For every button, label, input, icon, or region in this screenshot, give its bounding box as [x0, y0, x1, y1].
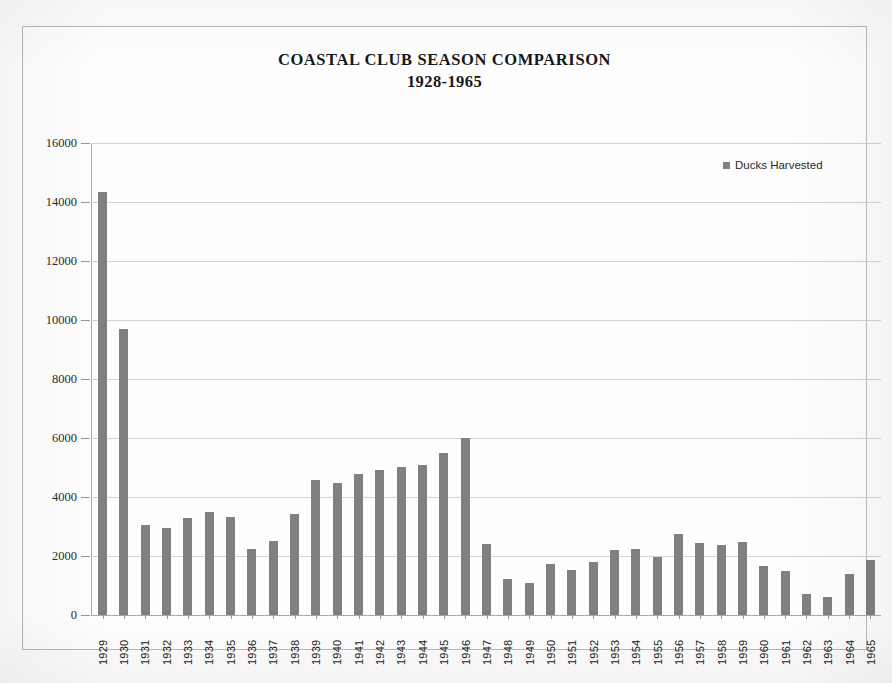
x-tick-1940	[337, 615, 338, 619]
y-tick-2000	[81, 556, 90, 557]
bar-slot	[796, 143, 817, 615]
y-axis-label: 0	[71, 608, 77, 623]
bar-1939[interactable]	[311, 480, 320, 615]
x-tick-1953	[615, 615, 616, 619]
x-axis-label-1950: 1950	[545, 621, 557, 665]
bar-1963[interactable]	[823, 597, 832, 615]
x-tick-slot	[647, 615, 668, 620]
x-tick-slot	[433, 615, 454, 620]
x-label-slot: 1950	[540, 621, 561, 665]
x-tick-1947	[487, 615, 488, 619]
bar-1957[interactable]	[695, 543, 704, 615]
bar-1935[interactable]	[226, 517, 235, 615]
bar-1929[interactable]	[98, 192, 107, 615]
bar-1960[interactable]	[759, 566, 768, 615]
bar-1940[interactable]	[333, 483, 342, 615]
bar-1936[interactable]	[247, 549, 256, 615]
x-label-slot: 1936	[241, 621, 262, 665]
x-axis-label-1947: 1947	[481, 621, 493, 665]
x-tick-1949	[529, 615, 530, 619]
x-tick-1956	[679, 615, 680, 619]
x-label-slot: 1934	[199, 621, 220, 665]
x-axis-label-1934: 1934	[203, 621, 215, 665]
x-label-slot: 1965	[860, 621, 881, 665]
bar-1950[interactable]	[546, 564, 555, 615]
x-tick-1933	[188, 615, 189, 619]
y-axis-label: 2000	[52, 549, 77, 564]
bar-1938[interactable]	[290, 514, 299, 615]
bar-slot	[604, 143, 625, 615]
x-tick-1939	[316, 615, 317, 619]
x-axis-label-1961: 1961	[780, 621, 792, 665]
bar-slot	[135, 143, 156, 615]
x-label-slot: 1930	[113, 621, 134, 665]
x-tick-slot	[156, 615, 177, 620]
bar-1962[interactable]	[802, 594, 811, 615]
bar-slot	[583, 143, 604, 615]
bar-1948[interactable]	[503, 579, 512, 615]
chart-title-text: COASTAL CLUB SEASON COMPARISON	[278, 50, 611, 69]
x-tick-1941	[359, 615, 360, 619]
bar-slot	[220, 143, 241, 615]
bar-1961[interactable]	[781, 571, 790, 615]
bar-1964[interactable]	[845, 574, 854, 615]
x-axis-label-1943: 1943	[395, 621, 407, 665]
bar-1933[interactable]	[183, 518, 192, 615]
x-tick-slot	[497, 615, 518, 620]
x-label-slot: 1961	[775, 621, 796, 665]
x-axis-label-1940: 1940	[331, 621, 343, 665]
x-tick-slot	[732, 615, 753, 620]
x-label-slot: 1938	[284, 621, 305, 665]
x-axis-label-1954: 1954	[630, 621, 642, 665]
bar-1959[interactable]	[738, 542, 747, 615]
x-tick-slot	[604, 615, 625, 620]
bar-1930[interactable]	[119, 329, 128, 615]
bar-1934[interactable]	[205, 512, 214, 615]
x-tick-slot	[476, 615, 497, 620]
bar-1965[interactable]	[866, 560, 875, 615]
x-axis-label-1942: 1942	[374, 621, 386, 665]
x-tick-1938	[295, 615, 296, 619]
x-tick-1957	[700, 615, 701, 619]
y-tick-8000	[81, 379, 90, 380]
x-label-slot: 1962	[796, 621, 817, 665]
bar-1958[interactable]	[717, 545, 726, 615]
x-axis-label-1965: 1965	[865, 621, 877, 665]
bar-1955[interactable]	[653, 557, 662, 615]
x-label-slot: 1959	[732, 621, 753, 665]
x-tick-slot	[796, 615, 817, 620]
bar-1953[interactable]	[610, 550, 619, 615]
bar-1937[interactable]	[269, 541, 278, 615]
bar-1949[interactable]	[525, 583, 534, 615]
x-label-slot: 1963	[818, 621, 839, 665]
bar-slot	[177, 143, 198, 615]
bar-1956[interactable]	[674, 534, 683, 615]
x-tick-1936	[252, 615, 253, 619]
y-axis-label: 8000	[52, 372, 77, 387]
bar-1951[interactable]	[567, 570, 576, 615]
bar-1945[interactable]	[439, 453, 448, 615]
x-axis-label-1948: 1948	[502, 621, 514, 665]
x-tick-1937	[273, 615, 274, 619]
bar-1932[interactable]	[162, 528, 171, 615]
bar-1954[interactable]	[631, 549, 640, 615]
x-axis-label-1932: 1932	[161, 621, 173, 665]
x-tick-1932	[167, 615, 168, 619]
bar-1943[interactable]	[397, 467, 406, 615]
bar-1952[interactable]	[589, 562, 598, 615]
bar-1942[interactable]	[375, 470, 384, 615]
x-axis-label-1930: 1930	[118, 621, 130, 665]
chart-frame: COASTAL CLUB SEASON COMPARISON 1928-1965…	[22, 26, 867, 650]
bar-1931[interactable]	[141, 525, 150, 615]
y-axis-label: 16000	[46, 136, 77, 151]
bar-slot	[455, 143, 476, 615]
bar-1947[interactable]	[482, 544, 491, 615]
y-tick-10000	[81, 320, 90, 321]
bar-1946[interactable]	[461, 438, 470, 615]
x-label-slot: 1946	[455, 621, 476, 665]
bar-1944[interactable]	[418, 465, 427, 615]
x-label-slot: 1953	[604, 621, 625, 665]
x-axis-label-1962: 1962	[801, 621, 813, 665]
bar-1941[interactable]	[354, 474, 363, 615]
x-tick-1950	[551, 615, 552, 619]
